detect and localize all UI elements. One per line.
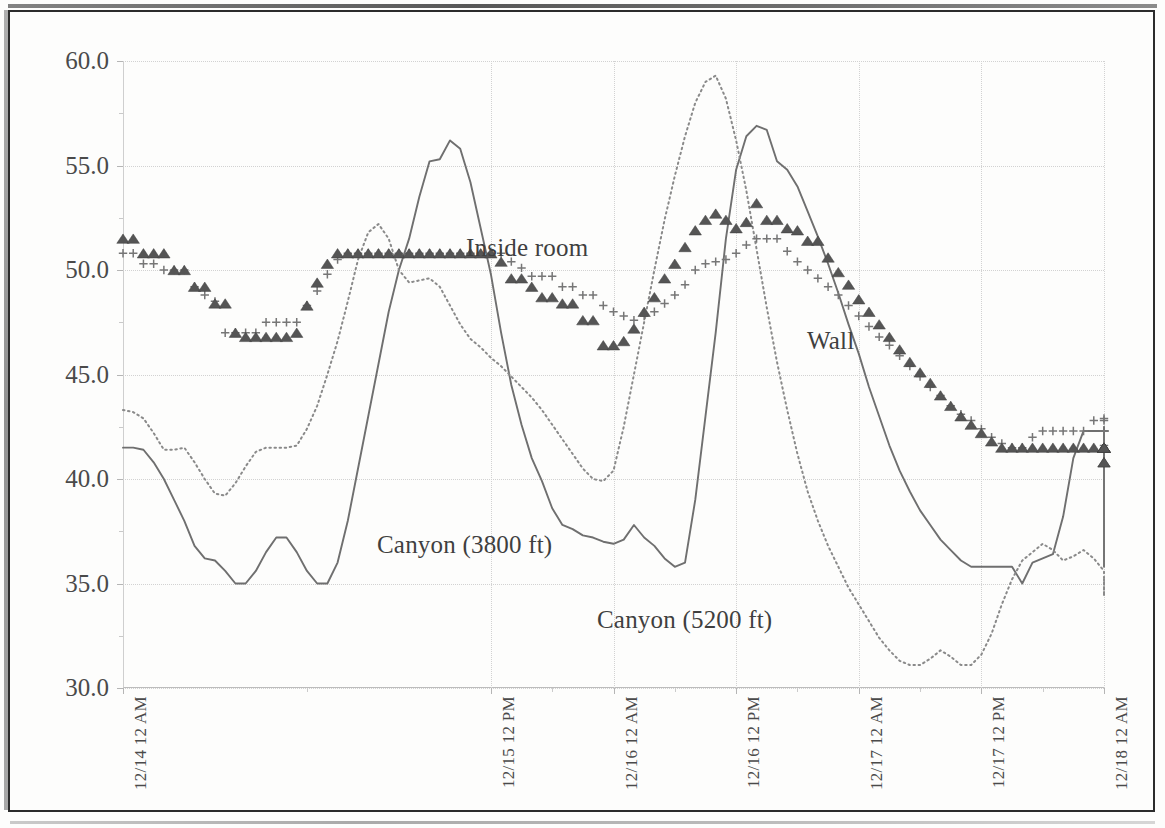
x-tick-label: 12/17 12 PM	[989, 696, 1009, 788]
wall-marker	[168, 265, 180, 274]
inside-room-marker	[1059, 427, 1067, 435]
wall-marker	[689, 226, 701, 235]
y-tick-label: 35.0	[65, 570, 109, 598]
inside-room-marker	[589, 291, 597, 299]
annotation-canyon-3800-ft: Canyon (3800 ft)	[377, 531, 552, 559]
wall-marker	[771, 215, 783, 224]
inside-room-marker	[1038, 427, 1046, 435]
inside-room-marker	[773, 234, 781, 242]
series-wall-markers	[117, 198, 1110, 467]
wall-marker	[924, 378, 936, 387]
inside-room-marker	[865, 322, 873, 330]
wall-marker	[699, 215, 711, 224]
inside-room-marker	[149, 260, 157, 268]
inside-room-marker	[875, 333, 883, 341]
inside-room-marker	[793, 257, 801, 265]
wall-marker	[188, 282, 200, 291]
wall-marker	[321, 259, 333, 268]
inside-room-marker	[834, 291, 842, 299]
inside-room-marker	[732, 249, 740, 257]
wall-marker	[985, 437, 997, 446]
wall-marker	[853, 295, 865, 304]
wall-marker	[556, 299, 568, 308]
annotation-canyon-5200-ft: Canyon (5200 ft)	[597, 606, 772, 634]
wall-marker	[393, 249, 405, 258]
inside-room-marker	[711, 257, 719, 265]
wall-marker	[761, 215, 773, 224]
wall-marker	[975, 428, 987, 437]
wall-marker	[730, 224, 742, 233]
inside-room-marker	[691, 266, 699, 274]
wall-marker	[423, 249, 435, 258]
inside-room-marker	[701, 260, 709, 268]
series-layer	[123, 61, 1104, 688]
inside-room-marker	[160, 266, 168, 274]
inside-room-marker	[620, 312, 628, 320]
wall-marker	[638, 307, 650, 316]
x-tick-mark-minor	[797, 688, 798, 692]
wall-marker	[577, 315, 589, 324]
wall-marker	[526, 282, 538, 291]
inside-room-marker	[599, 301, 607, 309]
annotation-wall: Wall	[807, 327, 854, 355]
inside-room-marker	[129, 249, 137, 257]
inside-room-marker	[568, 283, 576, 291]
wall-marker	[342, 249, 354, 258]
inside-room-marker	[855, 312, 863, 320]
y-tick-label: 30.0	[65, 674, 109, 702]
inside-room-marker	[824, 283, 832, 291]
y-tick-label: 55.0	[65, 152, 109, 180]
wall-marker	[505, 274, 517, 283]
inside-room-marker	[630, 316, 638, 324]
x-tick-mark-minor	[920, 688, 921, 692]
wall-marker	[791, 226, 803, 235]
y-tick-label: 60.0	[65, 47, 109, 75]
wall-marker	[137, 249, 149, 258]
wall-marker	[587, 315, 599, 324]
inside-room-marker	[538, 272, 546, 280]
wall-marker	[158, 249, 170, 258]
wall-marker	[1088, 443, 1100, 452]
scan-edge-bottom	[10, 821, 1155, 824]
x-tick-label: 12/17 12 AM	[867, 696, 887, 790]
x-tick-mark	[1104, 688, 1105, 694]
wall-marker	[209, 299, 221, 308]
wall-marker	[945, 401, 957, 410]
x-tick-mark-minor	[307, 688, 308, 692]
wall-marker	[1016, 443, 1028, 452]
wall-marker	[883, 332, 895, 341]
inside-room-marker	[752, 234, 760, 242]
x-tick-label: 12/18 12 AM	[1112, 696, 1132, 790]
x-tick-mark	[981, 688, 982, 694]
inside-room-marker	[742, 241, 750, 249]
wall-marker	[331, 249, 343, 258]
wall-marker	[914, 368, 926, 377]
x-tick-label: 12/16 12 AM	[622, 696, 642, 790]
wall-marker	[832, 267, 844, 276]
inside-room-marker	[558, 283, 566, 291]
inside-room-marker	[293, 318, 301, 326]
figure-canvas: 60.055.050.045.040.035.030.0 12/14 12 AM…	[0, 0, 1165, 828]
inside-room-marker	[609, 308, 617, 316]
wall-marker	[270, 332, 282, 341]
series-canyon-5200-line	[123, 76, 1104, 665]
x-tick-mark	[123, 688, 124, 694]
inside-room-marker	[517, 264, 525, 272]
inside-room-marker	[548, 272, 556, 280]
wall-marker	[1036, 443, 1048, 452]
inside-room-marker	[803, 266, 811, 274]
wall-marker	[311, 278, 323, 287]
inside-room-marker	[201, 291, 209, 299]
wall-marker	[781, 224, 793, 233]
wall-marker	[454, 249, 466, 258]
wall-marker	[362, 249, 374, 258]
y-tick-label: 40.0	[65, 465, 109, 493]
inside-room-marker	[282, 318, 290, 326]
wall-marker	[1006, 443, 1018, 452]
wall-marker	[628, 324, 640, 333]
x-tick-label: 12/15 12 PM	[499, 696, 519, 788]
wall-marker	[812, 236, 824, 245]
wall-marker	[669, 259, 681, 268]
wall-marker	[515, 274, 527, 283]
wall-marker	[127, 234, 139, 243]
